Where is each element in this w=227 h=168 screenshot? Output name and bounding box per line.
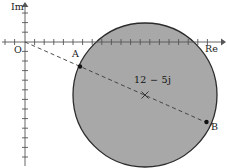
point-a-label: A	[72, 49, 79, 59]
imaginary-axis	[22, 7, 28, 166]
origin-label: O	[14, 45, 22, 55]
arrow-right-icon	[221, 39, 226, 46]
real-axis	[2, 39, 221, 45]
figure-canvas	[0, 0, 227, 168]
real-axis-label: Re	[205, 44, 218, 54]
point-a-marker	[78, 64, 82, 68]
point-b-marker	[204, 120, 208, 124]
complex-plane-figure: Im Re O A B 12 − 5j	[0, 0, 227, 168]
imaginary-axis-label: Im	[11, 2, 24, 12]
circle-center-label: 12 − 5j	[134, 75, 171, 85]
point-b-label: B	[211, 122, 218, 132]
